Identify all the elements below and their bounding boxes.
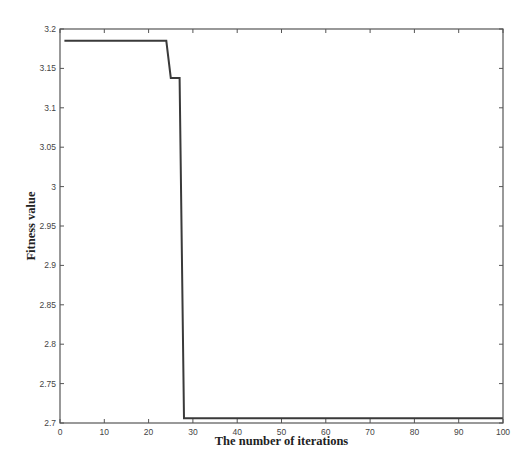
plot-area [60,29,503,423]
y-axis-label: Fitness value [24,191,38,261]
y-tick-label: 3.1 [44,103,56,113]
x-tick-label: 0 [58,427,63,437]
x-tick-label: 10 [100,427,110,437]
x-axis-label: The number of iterations [215,434,349,448]
y-tick-label: 2.7 [44,418,56,428]
x-tick-label: 20 [144,427,154,437]
y-tick-label: 3.05 [39,142,56,152]
x-tick-label: 90 [454,427,464,437]
y-tick-label: 2.95 [39,221,56,231]
y-tick-label: 2.75 [39,379,56,389]
fitness-chart: 0102030405060708090100 2.72.752.82.852.9… [0,0,530,475]
y-tick-label: 2.9 [44,260,56,270]
y-tick-label: 3 [51,182,56,192]
x-tick-label: 70 [365,427,375,437]
x-tick-label: 80 [410,427,420,437]
y-tick-label: 2.85 [39,300,56,310]
y-tick-label: 3.2 [44,24,56,34]
x-tick-label: 30 [188,427,198,437]
x-tick-label: 100 [496,427,510,437]
y-tick-label: 2.8 [44,339,56,349]
y-tick-label: 3.15 [39,63,56,73]
